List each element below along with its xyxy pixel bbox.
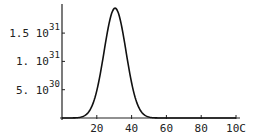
- data-curve: [62, 8, 236, 118]
- axes: [60, 4, 240, 120]
- x-tick-label: 10C: [226, 122, 246, 135]
- y-tick-exponent: 30: [49, 79, 60, 89]
- x-tick-label: 60: [160, 122, 173, 135]
- x-tick-label: 20: [90, 122, 103, 135]
- x-tick-label: 40: [125, 122, 138, 135]
- x-tick-label: 80: [195, 122, 208, 135]
- y-tick-mantissa: 5. 10: [16, 84, 49, 97]
- y-ticks: 5. 10301. 10311.5 1031: [9, 22, 65, 97]
- y-tick-mantissa: 1.5 10: [9, 27, 49, 40]
- y-tick-exponent: 31: [49, 50, 60, 60]
- line-chart: 2040608010C 5. 10301. 10311.5 1031: [0, 0, 256, 140]
- y-tick-mantissa: 1. 10: [16, 55, 49, 68]
- y-tick-exponent: 31: [49, 22, 60, 32]
